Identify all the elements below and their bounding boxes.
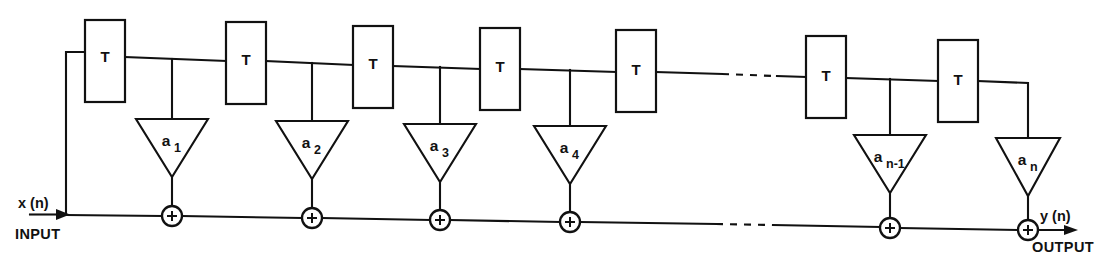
bus-in-s1 <box>66 215 162 216</box>
gain-triangle[interactable] <box>996 138 1060 196</box>
delay-block-label: T <box>100 48 109 65</box>
input-signal-label: x (n) <box>18 195 49 211</box>
filter-block-diagram: T T T T T T T a 1 <box>0 0 1106 266</box>
gain-triangle[interactable] <box>276 121 348 179</box>
gain-block-a1[interactable]: a 1 <box>136 119 208 206</box>
delay-line-ellipsis <box>722 74 777 76</box>
delay-block-label: T <box>821 67 830 84</box>
gain-label-base: a <box>430 137 439 154</box>
wire-T3-T4 <box>393 66 480 69</box>
bus-s4-gap <box>580 222 716 224</box>
delay-block-label: T <box>368 55 377 72</box>
wire-T6-T7 <box>846 78 938 81</box>
input-riser-wire <box>66 52 85 215</box>
summing-bus-wires <box>66 215 1018 230</box>
delay-block-label: T <box>495 58 504 75</box>
summing-junction-s1[interactable] <box>162 206 182 226</box>
summing-bus-ellipsis <box>716 224 773 225</box>
output-caption-label: OUTPUT <box>1032 239 1094 255</box>
wire-T7-to-an <box>978 81 1028 138</box>
gain-label-subscript: 2 <box>314 143 321 157</box>
input-caption-label: INPUT <box>15 226 61 242</box>
delay-block-T6[interactable]: T <box>806 36 846 118</box>
gain-block-a2[interactable]: a 2 <box>276 121 348 208</box>
delay-block-T5[interactable]: T <box>616 30 656 112</box>
wire-gap-T6 <box>777 76 806 77</box>
gain-label-base: a <box>874 148 883 165</box>
gain-triangle[interactable] <box>136 119 208 177</box>
summing-junction-s5[interactable] <box>880 218 900 238</box>
bus-gap-s5 <box>773 225 880 227</box>
wire-T1-T2 <box>125 57 226 61</box>
output-signal-label: y (n) <box>1040 208 1071 224</box>
delay-block-T1[interactable]: T <box>85 20 125 102</box>
gain-label-base: a <box>162 132 171 149</box>
gain-block-a3[interactable]: a 3 <box>404 124 476 210</box>
wire-T2-T3 <box>266 61 353 65</box>
gain-triangle[interactable] <box>534 126 606 184</box>
summing-junction-s4[interactable] <box>560 212 580 232</box>
delay-block-T3[interactable]: T <box>353 26 393 108</box>
bus-s2-s3 <box>322 218 430 220</box>
delay-block-label: T <box>953 71 962 88</box>
wire-T5-gap <box>656 72 722 74</box>
gain-triangle[interactable] <box>404 124 476 182</box>
bus-s1-s2 <box>182 216 302 218</box>
summing-junction-s2[interactable] <box>302 208 322 228</box>
delay-block-label: T <box>241 51 250 68</box>
gain-label-subscript: 3 <box>442 146 449 160</box>
filter-diagram-canvas: T T T T T T T a 1 <box>0 0 1106 266</box>
bus-s3-s4 <box>450 220 560 222</box>
wire-T4-T5 <box>520 69 616 72</box>
gain-block-an-1[interactable]: a n-1 <box>854 135 926 218</box>
gain-label-subscript: n <box>1030 160 1038 174</box>
bus-s5-s6 <box>900 228 1018 230</box>
delay-block-label: T <box>631 61 640 78</box>
gain-label-subscript: 1 <box>174 141 181 155</box>
gain-label-subscript: 4 <box>572 148 579 162</box>
gain-label-base: a <box>302 134 311 151</box>
output-group <box>1038 225 1078 235</box>
delay-block-T2[interactable]: T <box>226 22 266 104</box>
output-arrow-head <box>1064 225 1078 235</box>
gain-block-a4[interactable]: a 4 <box>534 126 606 212</box>
gain-label-subscript: n-1 <box>886 157 905 171</box>
summing-junction-s3[interactable] <box>430 210 450 230</box>
summing-junction-s6[interactable] <box>1018 220 1038 240</box>
delay-block-T4[interactable]: T <box>480 28 520 110</box>
delay-block-T7[interactable]: T <box>938 40 978 122</box>
gain-label-base: a <box>1018 151 1027 168</box>
gain-label-base: a <box>560 139 569 156</box>
